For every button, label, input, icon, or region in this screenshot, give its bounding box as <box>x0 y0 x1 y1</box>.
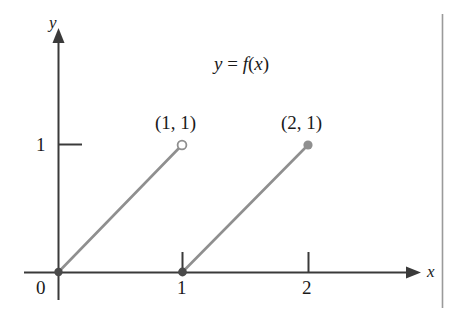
point-label-2-1: (2, 1) <box>281 113 322 132</box>
y-axis <box>53 28 65 300</box>
fn-x: x <box>254 53 262 74</box>
curve-segment-2 <box>183 145 309 272</box>
origin-tick-label: 0 <box>36 278 46 297</box>
point-marker-2-1-filled <box>303 140 312 149</box>
y-axis-label: y <box>49 14 57 31</box>
graph-svg <box>0 0 454 318</box>
point-marker-origin-filled <box>54 268 62 276</box>
x-axis-arrowhead <box>406 267 421 279</box>
x-axis-label: x <box>427 263 435 280</box>
point-label-1-1: (1, 1) <box>155 113 196 132</box>
function-equation-label: y = f(x) <box>214 54 269 73</box>
x-tick-label-1: 1 <box>177 278 187 297</box>
curve-segment-1 <box>59 145 183 272</box>
y-tick-label-1: 1 <box>36 135 46 154</box>
point-marker-1-1-open <box>178 141 187 150</box>
x-axis <box>24 267 421 279</box>
fn-equals: = <box>222 53 242 74</box>
x-tick-label-2: 2 <box>302 278 312 297</box>
point-marker-1-0-filled <box>178 268 187 277</box>
fn-paren-close: ) <box>263 53 269 74</box>
figure-canvas: y x 0 1 1 2 (1, 1) (2, 1) y = f(x) <box>0 0 454 318</box>
